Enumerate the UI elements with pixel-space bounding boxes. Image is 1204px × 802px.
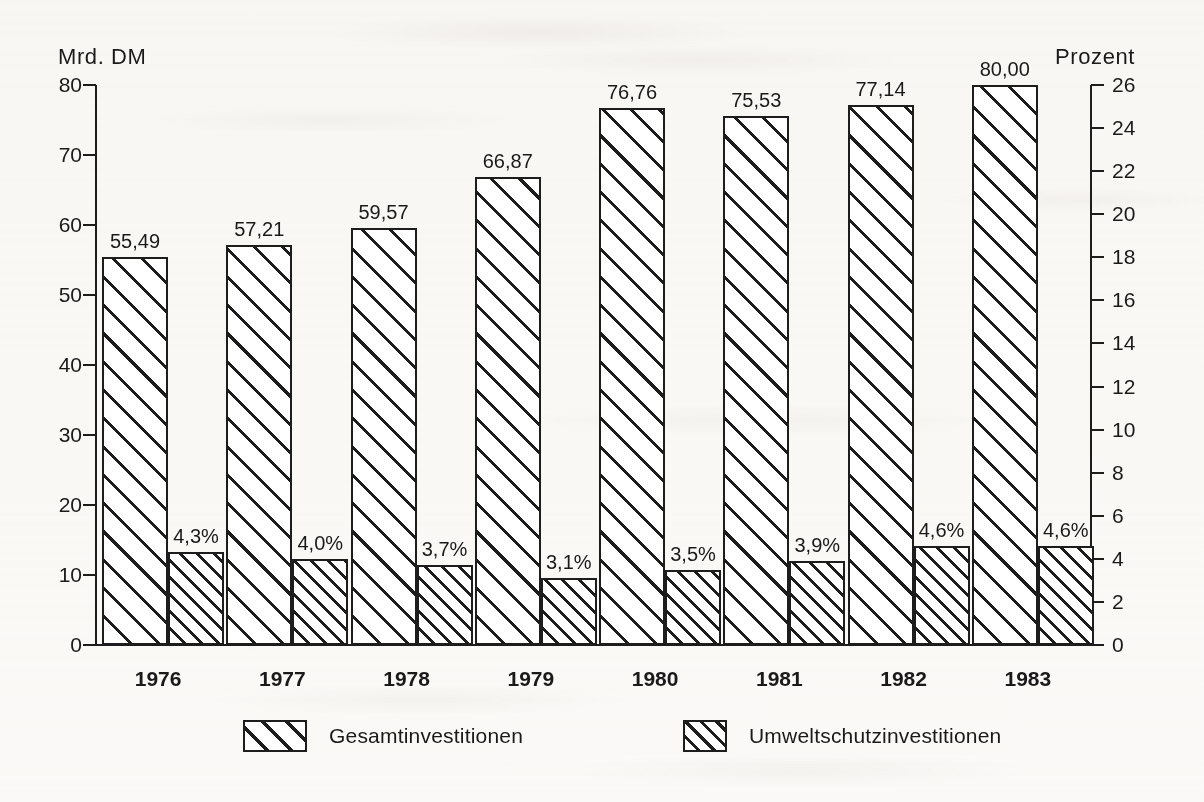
bar-value-label-gesamtinvestitionen: 76,76	[585, 82, 679, 102]
left-axis-tick-label: 80	[22, 74, 82, 95]
bar-gesamtinvestitionen	[599, 108, 665, 645]
right-axis-tick	[1091, 472, 1104, 474]
left-axis-tick	[83, 294, 96, 296]
x-axis-year-label: 1979	[469, 668, 593, 689]
left-axis-tick	[83, 224, 96, 226]
x-axis-year-label: 1976	[96, 668, 220, 689]
legend-swatch-dense-hatch-icon	[683, 720, 727, 752]
x-axis-year-label: 1978	[345, 668, 469, 689]
left-axis-tick	[83, 154, 96, 156]
legend-label-umweltschutzinvestitionen: Umweltschutzinvestitionen	[749, 724, 1001, 748]
bar-value-label-gesamtinvestitionen: 80,00	[958, 59, 1052, 79]
left-axis-tick-label: 10	[22, 564, 82, 585]
bar-umweltschutzinvestitionen	[1038, 546, 1094, 645]
left-axis-tick	[83, 574, 96, 576]
right-axis-tick	[1091, 84, 1104, 86]
chart-page: Mrd. DM Prozent 01020304050607080 024681…	[0, 0, 1204, 802]
bar-gesamtinvestitionen	[226, 245, 292, 645]
right-axis-tick-label: 12	[1112, 376, 1162, 397]
right-axis-tick-label: 18	[1112, 246, 1162, 267]
bar-value-label-umweltschutzinvestitionen: 4,3%	[158, 526, 234, 546]
right-axis-tick	[1091, 213, 1104, 215]
bar-value-label-gesamtinvestitionen: 57,21	[212, 219, 306, 239]
bar-value-label-gesamtinvestitionen: 59,57	[337, 202, 431, 222]
right-axis-tick-label: 2	[1112, 591, 1162, 612]
bar-umweltschutzinvestitionen	[665, 570, 721, 645]
x-axis-year-label: 1980	[593, 668, 717, 689]
left-axis-tick	[83, 504, 96, 506]
bar-value-label-umweltschutzinvestitionen: 3,7%	[407, 539, 483, 559]
bar-umweltschutzinvestitionen	[417, 565, 473, 645]
left-axis-tick	[83, 644, 96, 646]
bar-value-label-gesamtinvestitionen: 75,53	[709, 90, 803, 110]
bar-value-label-umweltschutzinvestitionen: 3,1%	[531, 552, 607, 572]
right-axis-title: Prozent	[1055, 44, 1135, 70]
left-axis-tick-label: 0	[22, 634, 82, 655]
right-axis-tick-label: 20	[1112, 203, 1162, 224]
left-axis-tick	[83, 364, 96, 366]
bar-gesamtinvestitionen	[848, 105, 914, 645]
right-axis-tick-label: 16	[1112, 289, 1162, 310]
bar-value-label-gesamtinvestitionen: 77,14	[834, 79, 928, 99]
bar-value-label-umweltschutzinvestitionen: 3,5%	[655, 544, 731, 564]
right-axis-tick-label: 24	[1112, 117, 1162, 138]
right-axis-tick	[1091, 386, 1104, 388]
bar-umweltschutzinvestitionen	[914, 546, 970, 645]
left-axis-tick-label: 60	[22, 214, 82, 235]
bar-umweltschutzinvestitionen	[541, 578, 597, 645]
bar-value-label-umweltschutzinvestitionen: 4,6%	[1028, 520, 1104, 540]
left-axis-tick-label: 40	[22, 354, 82, 375]
x-axis-year-label: 1983	[966, 668, 1090, 689]
bar-value-label-gesamtinvestitionen: 66,87	[461, 151, 555, 171]
right-axis-tick-label: 6	[1112, 505, 1162, 526]
left-axis-tick-label: 30	[22, 424, 82, 445]
right-axis-tick	[1091, 170, 1104, 172]
bar-gesamtinvestitionen	[475, 177, 541, 645]
legend-item-gesamtinvestitionen: Gesamtinvestitionen	[243, 720, 523, 752]
right-axis-tick-label: 14	[1112, 332, 1162, 353]
right-axis-tick	[1091, 127, 1104, 129]
right-axis-tick	[1091, 515, 1104, 517]
right-axis-tick	[1091, 299, 1104, 301]
bar-umweltschutzinvestitionen	[292, 559, 348, 645]
right-axis-tick-label: 22	[1112, 160, 1162, 181]
left-axis-tick	[83, 84, 96, 86]
bar-gesamtinvestitionen	[351, 228, 417, 645]
right-axis-tick-label: 4	[1112, 548, 1162, 569]
legend-item-umweltschutzinvestitionen: Umweltschutzinvestitionen	[683, 720, 1001, 752]
left-axis-tick-label: 50	[22, 284, 82, 305]
left-axis-tick-label: 20	[22, 494, 82, 515]
chart-legend: Gesamtinvestitionen Umweltschutzinvestit…	[0, 712, 1204, 772]
left-axis-tick-label: 70	[22, 144, 82, 165]
bar-value-label-umweltschutzinvestitionen: 3,9%	[779, 535, 855, 555]
right-axis-tick-label: 10	[1112, 419, 1162, 440]
right-axis-tick-label: 8	[1112, 462, 1162, 483]
bar-umweltschutzinvestitionen	[789, 561, 845, 645]
bar-value-label-gesamtinvestitionen: 55,49	[88, 231, 182, 251]
bar-value-label-umweltschutzinvestitionen: 4,6%	[904, 520, 980, 540]
x-axis-year-label: 1977	[220, 668, 344, 689]
bar-gesamtinvestitionen	[972, 85, 1038, 645]
x-axis-year-label: 1981	[717, 668, 841, 689]
left-axis-tick	[83, 434, 96, 436]
bar-gesamtinvestitionen	[102, 257, 168, 645]
legend-label-gesamtinvestitionen: Gesamtinvestitionen	[329, 724, 523, 748]
bar-value-label-umweltschutzinvestitionen: 4,0%	[282, 533, 358, 553]
right-axis-tick	[1091, 429, 1104, 431]
right-axis-tick	[1091, 256, 1104, 258]
right-axis-tick-label: 26	[1112, 74, 1162, 95]
legend-swatch-wide-hatch-icon	[243, 720, 307, 752]
bar-umweltschutzinvestitionen	[168, 552, 224, 645]
right-axis-tick	[1091, 342, 1104, 344]
bar-gesamtinvestitionen	[723, 116, 789, 645]
x-axis-year-label: 1982	[842, 668, 966, 689]
left-axis-title: Mrd. DM	[58, 44, 147, 70]
right-axis-tick-label: 0	[1112, 634, 1162, 655]
